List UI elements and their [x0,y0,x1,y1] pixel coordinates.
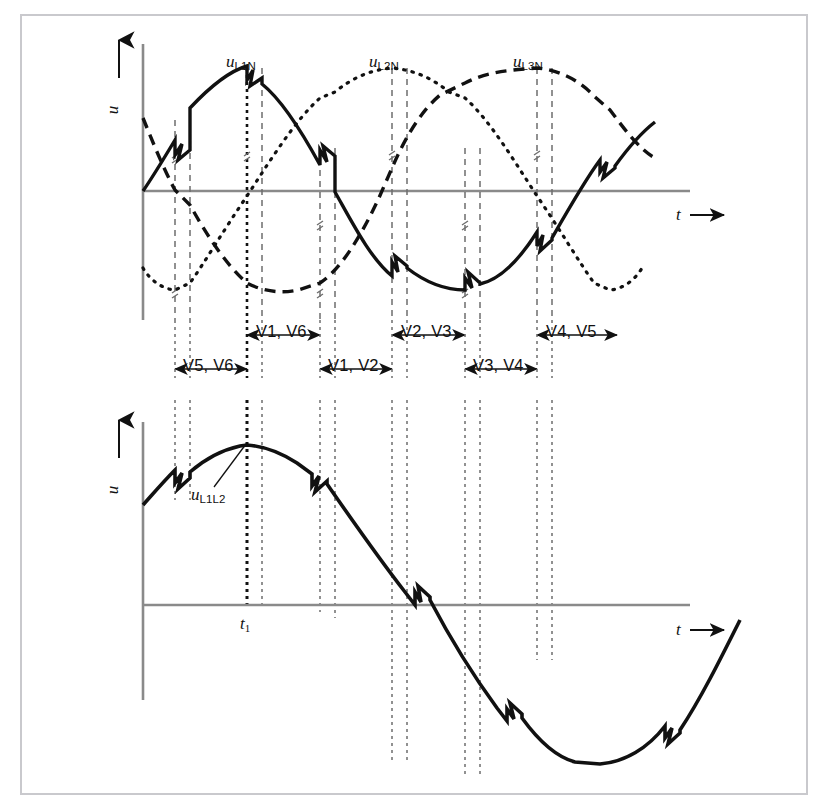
interval-label-v1v6: V1, V6 [256,322,307,341]
waveform-canvas [0,0,827,812]
interval-label-v3v4: V3, V4 [473,356,524,375]
figure-root: u t u t uL1N uL2N uL3N uL1L2 t1 V1, V6 V… [0,0,827,812]
interval-label-v1v2: V1, V2 [328,356,379,375]
u-l1n-label: uL1N [226,52,256,72]
lower-y-axis-label: u [103,481,123,499]
upper-y-axis-label: u [103,101,123,119]
lower-commutation-markers [175,400,552,775]
u-l2n-subscript: L2N [378,60,399,72]
upper-commutation-markers [175,68,552,320]
upper-x-axis-label: t [676,205,681,225]
u-l3n-label: uL3N [513,52,543,72]
lower-x-axis-label: t [676,620,681,640]
u-l1l2-symbol: u [191,485,200,504]
u-l1l2-subscript: L1L2 [200,493,226,505]
curve-u-l1n [143,66,655,290]
interval-label-v2v3: V2, V3 [401,322,452,341]
interval-label-v4v5: V4, V5 [546,322,597,341]
lower-plot-axes [119,420,724,700]
t1-subscript: 1 [245,622,251,634]
u-l1n-subscript: L1N [235,60,256,72]
interval-label-v5v6: V5, V6 [183,356,234,375]
u-l2n-symbol: u [369,52,378,71]
u-l1n-symbol: u [226,52,235,71]
u-l1l2-label: uL1L2 [191,485,225,505]
u-l3n-symbol: u [513,52,522,71]
u-l2n-label: uL2N [369,52,399,72]
u-l3n-subscript: L3N [522,60,543,72]
t1-marker-label: t1 [240,614,250,634]
